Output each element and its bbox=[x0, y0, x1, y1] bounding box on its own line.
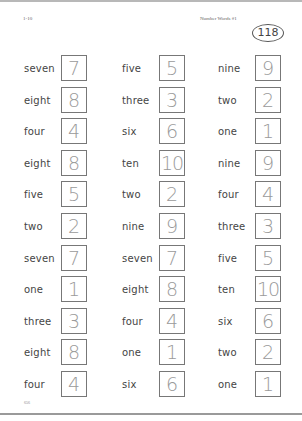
number-box: 1 bbox=[159, 339, 185, 365]
header-range: 1-10 bbox=[23, 16, 32, 21]
worksheet-item: one1 bbox=[122, 339, 185, 365]
number-box: 1 bbox=[255, 118, 281, 144]
number-word: eight bbox=[24, 158, 51, 169]
number-word: ten bbox=[122, 158, 139, 169]
worksheet-item: five5 bbox=[24, 181, 87, 207]
worksheet-item: two2 bbox=[218, 339, 281, 365]
worksheet-item: eight8 bbox=[122, 276, 185, 302]
number-word: six bbox=[218, 316, 233, 327]
number-box: 8 bbox=[61, 150, 87, 176]
number-box: 10 bbox=[255, 276, 281, 302]
number-box: 2 bbox=[61, 213, 87, 239]
number-word: two bbox=[122, 189, 141, 200]
number-word: seven bbox=[122, 253, 153, 264]
worksheet-item: six6 bbox=[218, 308, 281, 334]
number-box: 4 bbox=[159, 308, 185, 334]
number-box: 2 bbox=[159, 181, 185, 207]
number-box: 6 bbox=[159, 371, 185, 397]
worksheet-item: seven7 bbox=[24, 245, 87, 271]
number-box: 1 bbox=[61, 276, 87, 302]
top-border bbox=[0, 0, 302, 2]
number-box: 5 bbox=[255, 245, 281, 271]
number-box: 6 bbox=[159, 118, 185, 144]
number-box: 2 bbox=[255, 87, 281, 113]
number-word: two bbox=[218, 347, 237, 358]
number-word: one bbox=[122, 347, 141, 358]
number-word: four bbox=[122, 316, 143, 327]
number-word: three bbox=[122, 95, 149, 106]
worksheet-item: nine9 bbox=[122, 213, 185, 239]
worksheet-item: ten10 bbox=[218, 276, 281, 302]
number-word: eight bbox=[24, 95, 51, 106]
number-box: 1 bbox=[255, 371, 281, 397]
number-word: six bbox=[122, 379, 137, 390]
number-word: three bbox=[24, 316, 51, 327]
number-word: one bbox=[218, 126, 237, 137]
number-word: two bbox=[24, 221, 43, 232]
number-box: 3 bbox=[159, 87, 185, 113]
worksheet-item: one1 bbox=[218, 118, 281, 144]
worksheet-item: four4 bbox=[218, 181, 281, 207]
number-box: 10 bbox=[159, 150, 185, 176]
number-word: nine bbox=[122, 221, 144, 232]
footer-code: 656 bbox=[24, 400, 30, 405]
worksheet-item: two2 bbox=[24, 213, 87, 239]
number-box: 7 bbox=[159, 245, 185, 271]
number-word: nine bbox=[218, 158, 240, 169]
number-box: 3 bbox=[61, 308, 87, 334]
number-word: two bbox=[218, 95, 237, 106]
number-word: four bbox=[24, 379, 45, 390]
number-box: 8 bbox=[61, 339, 87, 365]
worksheet-item: four4 bbox=[24, 371, 87, 397]
number-box: 5 bbox=[61, 181, 87, 207]
number-word: nine bbox=[218, 63, 240, 74]
worksheet-item: three3 bbox=[122, 87, 185, 113]
number-box: 9 bbox=[159, 213, 185, 239]
number-box: 9 bbox=[255, 55, 281, 81]
number-box: 9 bbox=[255, 150, 281, 176]
worksheet-item: seven7 bbox=[24, 55, 87, 81]
number-word: seven bbox=[24, 63, 55, 74]
number-box: 7 bbox=[61, 55, 87, 81]
number-word: five bbox=[122, 63, 141, 74]
number-word: one bbox=[24, 284, 43, 295]
worksheet-item: nine9 bbox=[218, 150, 281, 176]
number-box: 7 bbox=[61, 245, 87, 271]
worksheet-item: six6 bbox=[122, 371, 185, 397]
number-box: 8 bbox=[61, 87, 87, 113]
worksheet-item: one1 bbox=[24, 276, 87, 302]
worksheet-item: three3 bbox=[24, 308, 87, 334]
number-box: 4 bbox=[61, 118, 87, 144]
worksheet-item: five5 bbox=[122, 55, 185, 81]
worksheet-item: four4 bbox=[24, 118, 87, 144]
number-word: seven bbox=[24, 253, 55, 264]
worksheet-item: two2 bbox=[218, 87, 281, 113]
worksheet-item: seven7 bbox=[122, 245, 185, 271]
number-box: 8 bbox=[159, 276, 185, 302]
number-word: five bbox=[24, 189, 43, 200]
number-word: five bbox=[218, 253, 237, 264]
worksheet-item: five5 bbox=[218, 245, 281, 271]
worksheet-item: four4 bbox=[122, 308, 185, 334]
worksheet-item: eight8 bbox=[24, 150, 87, 176]
number-word: one bbox=[218, 379, 237, 390]
number-box: 2 bbox=[255, 339, 281, 365]
number-word: three bbox=[218, 221, 245, 232]
number-word: eight bbox=[122, 284, 149, 295]
number-box: 6 bbox=[255, 308, 281, 334]
header-title: Number Words #1 bbox=[200, 16, 237, 21]
number-word: four bbox=[218, 189, 239, 200]
worksheet-item: six6 bbox=[122, 118, 185, 144]
page-number-badge: 118 bbox=[252, 24, 284, 42]
number-box: 4 bbox=[255, 181, 281, 207]
number-word: six bbox=[122, 126, 137, 137]
worksheet-item: one1 bbox=[218, 371, 281, 397]
number-box: 3 bbox=[255, 213, 281, 239]
worksheet-item: nine9 bbox=[218, 55, 281, 81]
number-word: ten bbox=[218, 284, 235, 295]
number-word: eight bbox=[24, 347, 51, 358]
bottom-border bbox=[0, 413, 302, 415]
worksheet-item: eight8 bbox=[24, 339, 87, 365]
number-word: four bbox=[24, 126, 45, 137]
worksheet-item: two2 bbox=[122, 181, 185, 207]
